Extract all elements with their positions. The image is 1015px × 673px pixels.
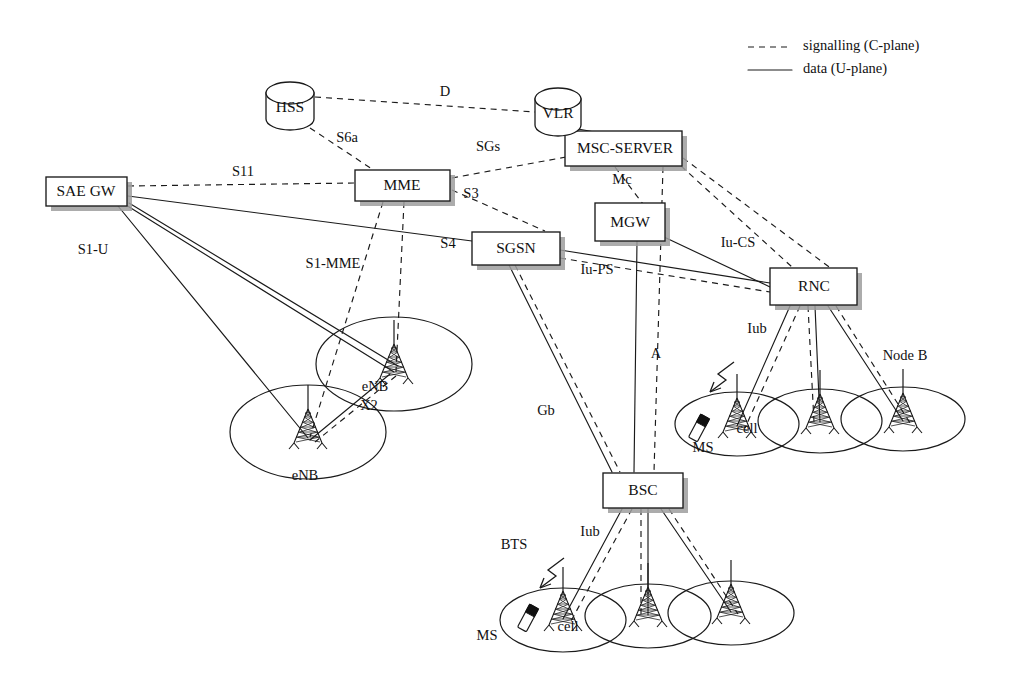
label-node-b: Node B xyxy=(883,347,928,363)
label-ms-umts: MS xyxy=(693,439,714,455)
legend-label-data: data (U-plane) xyxy=(803,60,887,77)
link-saegw-mme-s11 xyxy=(128,183,355,186)
legend: signalling (C-plane) data (U-plane) xyxy=(748,37,920,77)
iface-label-s6a: S6a xyxy=(336,129,358,145)
node-mgw-label: MGW xyxy=(610,213,650,230)
tower-enb-2 xyxy=(289,385,327,449)
node-bsc-label: BSC xyxy=(628,481,657,498)
iface-label-s3: S3 xyxy=(463,185,478,201)
node-layer: SAE GW MME SGSN MGW xyxy=(46,82,862,513)
link-saegw-enb1-s1u-b xyxy=(129,203,398,366)
label-cell-gsm: cell xyxy=(558,618,579,634)
iface-label-iucs: Iu-CS xyxy=(721,234,756,250)
node-hss-label: HSS xyxy=(276,98,304,115)
iface-label-x2: X2 xyxy=(360,397,378,413)
iface-label-a: A xyxy=(651,345,662,361)
node-sgsn[interactable]: SGSN xyxy=(472,232,565,270)
link-sgsn-bsc-gb-data xyxy=(509,265,612,472)
iface-label-s1mme: S1-MME xyxy=(306,255,361,271)
link-mgw-bsc-a-data xyxy=(634,241,637,472)
link-mme-mscserver-sgs xyxy=(452,157,566,178)
link-rnc-nodeb3-data xyxy=(828,306,903,421)
node-sae-gw[interactable]: SAE GW xyxy=(46,177,132,211)
link-mscserver-rnc-sig xyxy=(681,166,792,267)
link-rnc-nodeb2-sig xyxy=(808,306,814,422)
node-hss[interactable]: HSS xyxy=(266,82,314,130)
iface-label-iub-gsm: Iub xyxy=(580,523,599,539)
iface-label-s1u: S1-U xyxy=(78,241,109,257)
label-bts: BTS xyxy=(501,536,528,552)
node-sgsn-label: SGSN xyxy=(496,239,536,256)
label-enb-1: eNB xyxy=(362,378,389,394)
link-mme-enb1-s1mme xyxy=(396,202,404,372)
tower-enb-1 xyxy=(375,320,413,384)
legend-label-signalling: signalling (C-plane) xyxy=(803,37,920,54)
link-bsc-bts3-data xyxy=(661,509,731,612)
tower-nodeb-2 xyxy=(801,370,839,434)
cell-layer xyxy=(230,317,965,652)
cell-ellipse-gsm-3 xyxy=(668,581,794,645)
node-rnc[interactable]: RNC xyxy=(770,268,862,310)
node-mme-label: MME xyxy=(383,176,420,193)
node-msc-server[interactable]: MSC-SERVER xyxy=(565,131,687,171)
network-diagram: SAE GW MME SGSN MGW xyxy=(0,0,1015,673)
iface-label-d: D xyxy=(440,83,450,99)
iface-label-gb: Gb xyxy=(537,402,555,418)
label-ms-gsm: MS xyxy=(477,627,498,643)
handset-ms-umts xyxy=(688,414,709,442)
diagram-canvas: SAE GW MME SGSN MGW xyxy=(0,0,1015,673)
handset-ms-gsm xyxy=(517,604,538,632)
tower-bts-2 xyxy=(629,563,667,627)
iface-label-sgs: SGs xyxy=(476,138,501,154)
node-rnc-label: RNC xyxy=(798,277,830,294)
iface-label-s11: S11 xyxy=(232,163,254,179)
node-vlr[interactable]: VLR xyxy=(535,88,581,136)
node-bsc[interactable]: BSC xyxy=(603,473,688,513)
iface-label-mc: Mc xyxy=(612,171,631,187)
link-saegw-enb2-s1u xyxy=(118,206,308,438)
iface-label-iups: Iu-PS xyxy=(580,261,613,277)
label-enb-2: eNB xyxy=(292,467,319,483)
iface-label-s4: S4 xyxy=(440,235,456,251)
node-mme[interactable]: MME xyxy=(355,170,455,206)
node-mgw[interactable]: MGW xyxy=(595,203,670,246)
link-saegw-enb1-s1u xyxy=(126,205,394,372)
iface-label-iub-umts: Iub xyxy=(747,320,766,336)
node-vlr-label: VLR xyxy=(543,104,575,121)
node-sae-gw-label: SAE GW xyxy=(57,182,116,199)
radio-bolt-gsm xyxy=(540,558,564,588)
link-hss-vlr-d xyxy=(315,97,535,112)
link-sgsn-bsc-gb-sig xyxy=(515,265,620,472)
radio-bolt-umts xyxy=(710,362,734,392)
node-msc-server-label: MSC-SERVER xyxy=(577,139,674,156)
label-cell-umts: cell xyxy=(737,420,758,436)
